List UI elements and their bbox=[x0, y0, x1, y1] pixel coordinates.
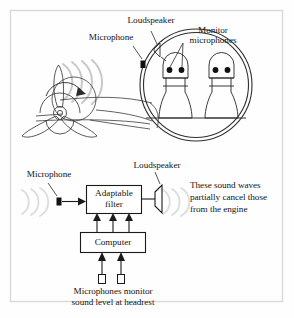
arrows-mics-to-computer bbox=[98, 252, 125, 275]
figure-border bbox=[11, 11, 283, 302]
figure-root: Loudspeaker Microphone Monitor microphon… bbox=[0, 0, 294, 318]
propeller-icon bbox=[22, 65, 97, 137]
diagram-microphone-icon bbox=[57, 198, 62, 206]
diagram-loudspeaker-leader-line bbox=[155, 172, 160, 184]
headrest-microphone-icon-2 bbox=[118, 275, 125, 284]
label-loudspeaker-diagram: Loudspeaker bbox=[118, 160, 196, 171]
caption-line2: sound level at headrest bbox=[48, 297, 178, 308]
note-line2: partially cancel those bbox=[190, 192, 292, 203]
diagram-microphone-leader-line bbox=[48, 183, 57, 196]
note-line1: These sound waves bbox=[190, 180, 290, 191]
label-loudspeaker-cabin: Loudspeaker bbox=[112, 15, 190, 26]
adaptable-filter-label-line1: Adaptable bbox=[86, 188, 142, 198]
caption-line1: Microphones monitor bbox=[48, 286, 178, 297]
adaptable-filter-label-line2: filter bbox=[86, 199, 142, 209]
passenger-right bbox=[205, 52, 238, 118]
microphone-leader-line bbox=[133, 46, 142, 59]
note-line3: from the engine bbox=[190, 204, 290, 215]
cabin-microphone-icon bbox=[141, 61, 146, 69]
noise-control-figure bbox=[0, 0, 294, 318]
output-sound-waves bbox=[163, 188, 189, 216]
label-microphone-diagram: Microphone bbox=[14, 169, 84, 180]
computer-label: Computer bbox=[80, 237, 146, 247]
headrest-microphone-icon-1 bbox=[99, 275, 106, 284]
diagram-loudspeaker-icon bbox=[155, 185, 162, 213]
arrows-computer-to-filter bbox=[93, 213, 133, 232]
input-sound-waves bbox=[22, 188, 48, 216]
passenger-left bbox=[159, 52, 192, 118]
arrow-mic-to-filter bbox=[62, 198, 86, 206]
label-microphone-cabin: Microphone bbox=[76, 32, 146, 43]
label-monitor-microphones-line1: Monitor bbox=[176, 25, 250, 36]
label-monitor-microphones-line2: microphones bbox=[176, 35, 250, 46]
loudspeaker-leader-line bbox=[151, 31, 157, 44]
